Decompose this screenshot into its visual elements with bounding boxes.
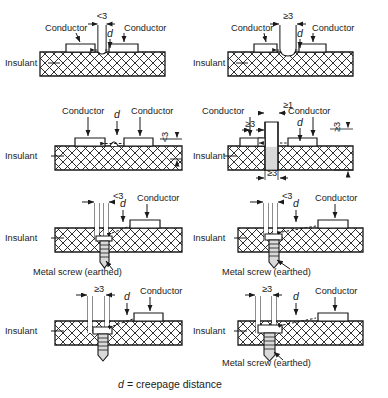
label-insulant: Insulant bbox=[5, 326, 38, 336]
label-conductor-right: Conductor bbox=[315, 286, 357, 296]
label-insulant: Insulant bbox=[5, 58, 38, 68]
cement-block bbox=[258, 138, 265, 146]
groove-inner bbox=[281, 25, 296, 51]
slot-gap-left bbox=[95, 203, 99, 240]
label-insulant: Insulant bbox=[5, 151, 38, 161]
conductor-pad-right bbox=[130, 220, 160, 228]
label-conductor-right: Conductor bbox=[288, 106, 330, 116]
label-conductor-right: Conductor bbox=[312, 23, 354, 33]
label-conductor-right: Conductor bbox=[124, 23, 166, 33]
label-insulant: Insulant bbox=[193, 151, 226, 161]
label-metal-screw: Metal screw (earthed) bbox=[222, 267, 311, 277]
screw-head bbox=[258, 325, 282, 333]
label-metal-screw: Metal screw (earthed) bbox=[222, 358, 311, 368]
label-metal-screw: Metal screw (earthed) bbox=[33, 267, 122, 277]
creepage-distance-figure: <3 d Conductor Conductor Insulant ≥3 d C… bbox=[0, 0, 388, 398]
slot-gap-right bbox=[104, 203, 108, 240]
conductor-pad-right bbox=[124, 138, 153, 146]
dim-gap-width: <3 bbox=[282, 191, 292, 201]
dim-groove-width: <3 bbox=[97, 11, 107, 21]
conductor-pad-left bbox=[75, 138, 105, 146]
insulant-block bbox=[238, 228, 363, 252]
screw-head bbox=[96, 236, 112, 241]
screw-head bbox=[93, 327, 112, 334]
slot-gap-left bbox=[88, 296, 92, 333]
conductor-pad-right bbox=[318, 313, 348, 321]
conductor-pad-left bbox=[66, 44, 95, 52]
dim-gap-width: ≥3 bbox=[262, 284, 272, 294]
dim-gap-bottom: ≥3 bbox=[267, 168, 277, 178]
label-insulant: Insulant bbox=[193, 233, 226, 243]
rib-shading bbox=[266, 147, 277, 169]
insulant-block bbox=[55, 146, 182, 170]
label-conductor-left: Conductor bbox=[202, 106, 244, 116]
dim-groove-width: ≥3 bbox=[283, 11, 293, 21]
caption-text: = creepage distance bbox=[127, 378, 222, 390]
insulant-block bbox=[55, 228, 182, 252]
label-conductor-right: Conductor bbox=[131, 106, 173, 116]
label-conductor-left: Conductor bbox=[231, 23, 273, 33]
conductor-pad-right bbox=[288, 138, 317, 146]
groove-inner bbox=[99, 25, 106, 52]
label-conductor-right: Conductor bbox=[140, 286, 182, 296]
dim-gap-width: ≥3 bbox=[94, 284, 104, 294]
conductor-pad-right bbox=[318, 220, 348, 228]
insulant-block bbox=[40, 52, 165, 76]
label-insulant: Insulant bbox=[5, 233, 38, 243]
label-conductor-right: Conductor bbox=[137, 193, 179, 203]
dim-rib-height: <3 bbox=[160, 132, 170, 142]
label-conductor-left: Conductor bbox=[45, 23, 87, 33]
label-conductor-right: Conductor bbox=[315, 193, 357, 203]
conductor-pad-right bbox=[299, 44, 326, 52]
screw-head bbox=[265, 234, 282, 240]
insulant-block bbox=[228, 146, 353, 170]
dim-rib-height: ≥3 bbox=[332, 122, 342, 132]
conductor-pad-left bbox=[254, 44, 277, 52]
label-insulant: Insulant bbox=[193, 58, 226, 68]
conductor-pad-right bbox=[134, 313, 163, 321]
label-conductor-left: Conductor bbox=[62, 106, 104, 116]
figure-caption: d = creepage distance bbox=[118, 378, 222, 390]
label-insulant: Insulant bbox=[193, 326, 226, 336]
conductor-pad-right bbox=[109, 44, 138, 52]
